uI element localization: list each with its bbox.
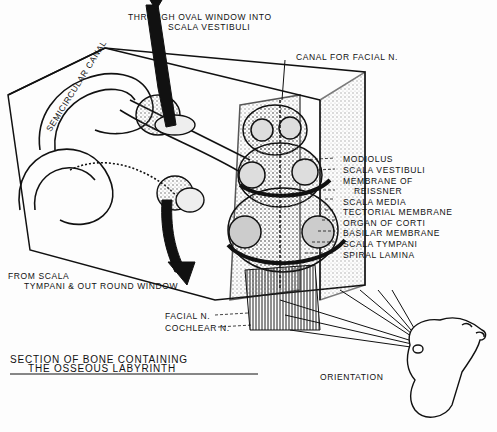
label-scala-tympani: Scala tympani [343, 239, 418, 249]
diagram-title-line2: the osseous labyrinth [28, 364, 176, 374]
label-membrane-of: Membrane of [343, 176, 413, 186]
label-basilar-membrane: Basilar membrane [343, 228, 440, 238]
label-reissner: Reissner [354, 186, 402, 196]
orientation-head [408, 318, 486, 417]
label-canal-facial-n: Canal for facial n. [296, 52, 398, 62]
label-scala-media: Scala media [343, 197, 406, 207]
label-tympani-round-window: tympani & out round window [24, 281, 178, 291]
label-orientation: Orientation [320, 372, 383, 382]
label-facial-n: Facial n. [165, 311, 210, 321]
osseous-labyrinth-illustration: Through oval window into scala vestibuli… [0, 0, 497, 432]
label-through-oval-window: Through oval window into [128, 12, 272, 22]
label-tectorial-membrane: Tectorial membrane [343, 207, 453, 217]
label-modiolus: Modiolus [343, 154, 393, 164]
label-from-scala: From scala [8, 271, 69, 281]
label-scala-vestibuli: Scala vestibuli [343, 165, 425, 175]
label-organ-of-corti: Organ of Corti [343, 218, 425, 228]
label-spiral-lamina: Spiral lamina [343, 250, 415, 260]
label-scala-vestibuli-top: scala vestibuli [168, 22, 250, 32]
label-cochlear-n: Cochlear n. [165, 323, 230, 333]
